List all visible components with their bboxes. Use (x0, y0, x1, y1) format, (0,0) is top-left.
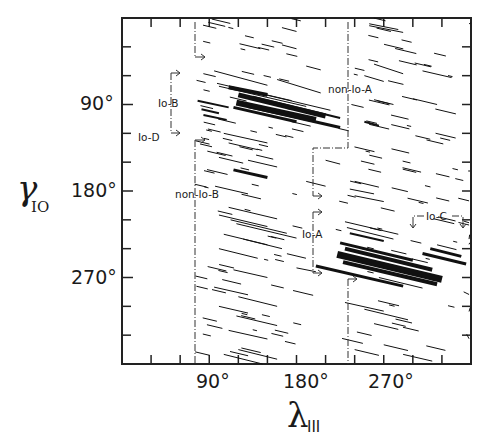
emission-stroke (238, 297, 277, 307)
emission-stroke (203, 41, 210, 43)
emission-stroke (336, 229, 342, 230)
emission-stroke (357, 332, 372, 335)
emission-stroke (369, 60, 379, 62)
emission-stroke (469, 243, 470, 245)
arrow-right-icon (171, 70, 180, 76)
emission-stroke (272, 41, 283, 44)
emission-stroke (292, 194, 296, 195)
emission-stroke (271, 333, 283, 336)
emission-stroke (203, 90, 209, 91)
emission-stroke (326, 160, 341, 164)
emission-stroke (369, 155, 382, 158)
emission-stroke (342, 338, 363, 343)
emission-stroke (276, 134, 287, 137)
emission-stroke (259, 144, 268, 146)
emission-stroke (391, 250, 406, 254)
emission-stroke (252, 184, 259, 186)
emission-stroke (285, 341, 296, 344)
emission-stroke (355, 181, 379, 187)
emission-stroke (208, 22, 225, 26)
emission-stroke (361, 161, 374, 164)
emission-stroke (222, 280, 241, 284)
emission-stroke (448, 306, 454, 308)
emission-stroke (215, 186, 248, 194)
emission-stroke (354, 74, 358, 75)
emission-stroke (214, 71, 267, 85)
emission-stroke (228, 27, 233, 28)
emission-stroke (242, 71, 254, 74)
emission-stroke (426, 346, 445, 351)
emission-stroke (224, 133, 268, 143)
emission-stroke (388, 81, 403, 85)
emission-stroke (241, 49, 246, 50)
emission-stroke (286, 54, 297, 57)
arrow-right-icon (313, 193, 322, 199)
emission-stroke (411, 241, 422, 244)
emission-stroke (402, 40, 412, 42)
emission-stroke (391, 149, 409, 153)
emission-stroke (453, 169, 458, 170)
emission-stroke (435, 109, 456, 114)
emission-stroke (275, 259, 284, 261)
x-axis-label-subscript: III (307, 418, 320, 436)
emission-stroke (241, 168, 249, 170)
emission-stroke (253, 330, 257, 331)
emission-stroke (412, 259, 428, 263)
emission-stroke (389, 305, 395, 306)
emission-stroke (242, 194, 261, 199)
emission-stroke (233, 270, 267, 278)
emission-stroke (219, 249, 258, 259)
emission-stroke (264, 259, 268, 260)
x-axis-label-symbol: λ (287, 395, 309, 435)
emission-stroke (229, 330, 268, 339)
label-io-c: Io-C (426, 210, 447, 222)
x-tick-label-270: 270° (368, 370, 414, 392)
emission-stroke (440, 138, 450, 140)
emission-stroke (391, 125, 409, 129)
emission-stroke (243, 239, 282, 249)
emission-stroke (306, 181, 325, 186)
emission-stroke (464, 292, 469, 295)
emission-stroke (369, 124, 389, 129)
emission-stroke (287, 254, 306, 259)
label-io-a: Io-A (302, 228, 323, 240)
emission-stroke (381, 208, 395, 211)
emission-stroke (201, 109, 218, 113)
emission-stroke (415, 136, 430, 140)
emission-stroke (268, 127, 272, 128)
emission-stroke (425, 186, 431, 187)
emission-stroke (293, 323, 301, 325)
emission-stroke (364, 309, 408, 320)
label-non-io-a: non-Io-A (328, 83, 373, 95)
non-io-a-boundary (313, 22, 348, 196)
emission-strokes (195, 18, 471, 364)
emission-stroke (242, 313, 248, 314)
emission-stroke (257, 149, 262, 150)
y-tick-label-180: 180° (71, 179, 117, 201)
emission-stroke (367, 272, 373, 273)
emission-stroke (306, 66, 321, 70)
emission-stroke (355, 196, 384, 202)
emission-stroke (271, 285, 284, 288)
emission-stroke (203, 334, 211, 336)
emission-stroke (345, 302, 384, 311)
emission-stroke (264, 76, 271, 78)
emission-stroke (204, 122, 215, 125)
emission-stroke (403, 327, 419, 331)
emission-stroke (392, 323, 406, 326)
arrow-down-icon (410, 224, 416, 228)
emission-stroke (402, 96, 417, 100)
emission-stroke (293, 226, 303, 228)
emission-stroke (415, 63, 431, 67)
emission-stroke (223, 138, 232, 140)
emission-stroke (408, 198, 428, 203)
emission-stroke (355, 350, 379, 356)
emission-stroke (419, 202, 424, 203)
arrow-right-icon (348, 276, 357, 282)
emission-stroke (469, 235, 470, 239)
emission-stroke (407, 125, 411, 126)
emission-stroke (196, 286, 207, 289)
emission-stroke (250, 131, 257, 133)
emission-stroke (364, 76, 383, 82)
emission-stroke (195, 352, 210, 356)
